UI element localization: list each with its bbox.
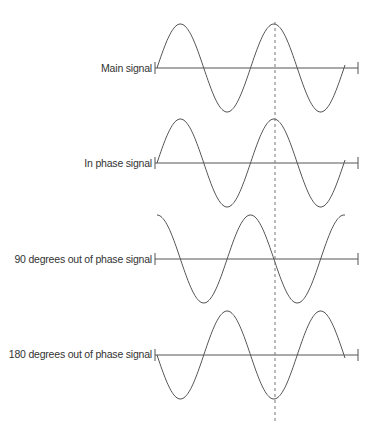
label-180-degrees-signal: 180 degrees out of phase signal: [9, 348, 152, 360]
phase-diagram: [0, 0, 377, 439]
label-main-signal: Main signal: [101, 62, 152, 74]
label-90-degrees-signal: 90 degrees out of phase signal: [14, 253, 152, 265]
label-in-phase-signal: In phase signal: [84, 157, 152, 169]
